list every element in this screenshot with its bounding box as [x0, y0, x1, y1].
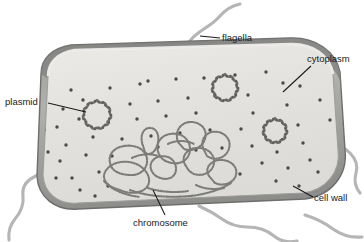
- plasmid-bead: [235, 90, 238, 93]
- ribosome-dot: [202, 76, 205, 79]
- plasmid-bead: [222, 100, 225, 103]
- plasmid-bead: [94, 100, 97, 103]
- plasmid-bead: [265, 136, 268, 139]
- ribosome-dot: [58, 159, 61, 162]
- plasmid-bead: [263, 130, 266, 133]
- plasmid-bead: [212, 87, 215, 90]
- plasmid-bead: [281, 138, 284, 141]
- ribosome-dot: [246, 93, 249, 96]
- ribosome-dot: [54, 176, 57, 179]
- plasmid-bead: [269, 120, 272, 123]
- ribosome-dot: [281, 81, 284, 84]
- plasmid-bead: [102, 101, 105, 104]
- plasmid-bead: [235, 83, 238, 86]
- ribosome-dot: [238, 172, 241, 175]
- plasmid-bead: [225, 75, 228, 78]
- plasmid-bead: [110, 114, 113, 117]
- ribosome-dot: [46, 150, 49, 153]
- plasmid-bead: [281, 122, 284, 125]
- plasmid-bead: [108, 117, 111, 120]
- ribosome-dot: [81, 98, 84, 101]
- flagellum-bottom-right: [305, 215, 362, 237]
- ribosome-dot: [308, 158, 311, 161]
- plasmid-bead: [87, 103, 90, 106]
- plasmid-bead: [82, 118, 85, 121]
- ribosome-dot: [318, 98, 321, 101]
- flagellum-bottom: [199, 206, 297, 242]
- plasmid-bead: [275, 140, 278, 143]
- label-plasmid: plasmid: [5, 96, 38, 107]
- plasmid-bead: [215, 77, 218, 80]
- ribosome-dot: [69, 88, 72, 91]
- ribosome-dot: [138, 82, 141, 85]
- label-chromosome: chromosome: [133, 217, 188, 228]
- ribosome-dot: [97, 170, 100, 173]
- plasmid-bead: [214, 93, 217, 96]
- ribosome-dot: [275, 150, 278, 153]
- ribosome-dot: [297, 184, 300, 187]
- plasmid-bead: [219, 97, 222, 100]
- plasmid-bead: [262, 126, 265, 129]
- ribosome-dot: [93, 194, 96, 197]
- plasmid-bead: [229, 75, 232, 78]
- ribosome-dot: [64, 143, 67, 146]
- plasmid-bead: [284, 136, 287, 139]
- ribosome-dot: [316, 170, 319, 173]
- label-flagella: flagella: [222, 32, 253, 43]
- ribosome-dot: [108, 86, 111, 89]
- plasmid-bead: [104, 123, 107, 126]
- ribosome-dot: [298, 84, 301, 87]
- ribosome-dot: [301, 141, 304, 144]
- plasmid-bead: [235, 80, 238, 83]
- ribosome-dot: [285, 103, 288, 106]
- plasmid-bead: [85, 121, 88, 124]
- ribosome-dot: [55, 125, 58, 128]
- plasmid-bead: [275, 119, 278, 122]
- plasmid-bead: [266, 121, 269, 124]
- ribosome-dot: [78, 188, 81, 191]
- plasmid-bead: [231, 78, 234, 81]
- ribosome-dot: [174, 77, 177, 80]
- plasmid-bead: [98, 101, 101, 104]
- plasmid-bead: [87, 124, 90, 127]
- ribosome-dot: [274, 179, 277, 182]
- plasmid-bead: [237, 87, 240, 90]
- plasmid-bead: [94, 128, 97, 131]
- leader-flagella: [200, 36, 220, 38]
- bacterial-cell-figure: flagellacytoplasmplasmidcell wallchromos…: [0, 0, 364, 242]
- ribosome-dot: [264, 70, 267, 73]
- ribosome-dot: [164, 114, 167, 117]
- plasmid-bead: [284, 133, 287, 136]
- plasmid-bead: [265, 124, 268, 127]
- ribosome-dot: [77, 117, 80, 120]
- plasmid-bead: [272, 118, 275, 121]
- label-cell-wall: cell wall: [314, 192, 347, 203]
- ribosome-dot: [328, 118, 331, 121]
- bacterial-cell-diagram: flagellacytoplasmplasmidcell wallchromos…: [0, 0, 364, 242]
- plasmid-bead: [98, 126, 101, 129]
- plasmid-bead: [219, 76, 222, 79]
- ribosome-dot: [146, 79, 149, 82]
- plasmid-bead: [286, 130, 289, 133]
- ribosome-dot: [220, 146, 223, 149]
- ribosome-dot: [61, 107, 64, 110]
- ribosome-dot: [194, 111, 197, 114]
- plasmid-bead: [262, 133, 265, 136]
- plasmid-bead: [279, 141, 282, 144]
- ribosome-dot: [120, 137, 123, 140]
- plasmid-bead: [211, 90, 214, 93]
- plasmid-bead: [83, 114, 86, 117]
- ribosome-dot: [233, 73, 236, 76]
- ribosome-dot: [250, 144, 253, 147]
- plasmid-bead: [90, 125, 93, 128]
- ribosome-dot: [70, 176, 73, 179]
- plasmid-bead: [235, 94, 238, 97]
- ribosome-dot: [251, 111, 254, 114]
- plasmid-bead: [279, 119, 282, 122]
- ribosome-dot: [149, 134, 152, 137]
- plasmid-bead: [102, 127, 105, 130]
- plasmid-bead: [284, 123, 287, 126]
- plasmid-bead: [269, 140, 272, 143]
- plasmid-bead: [108, 110, 111, 113]
- plasmid-bead: [104, 104, 107, 107]
